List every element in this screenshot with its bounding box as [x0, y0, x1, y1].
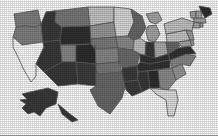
choropleth-map-figure: [0, 0, 218, 136]
us-map-svg: [0, 0, 218, 136]
figure-baseline: [0, 135, 218, 136]
state-florida[interactable]: [150, 88, 178, 116]
state-washington[interactable]: [14, 10, 41, 27]
state-alaska[interactable]: [20, 88, 78, 122]
state-arkansas[interactable]: [122, 66, 138, 82]
state-massachusetts[interactable]: [193, 18, 206, 23]
state-rhode-island[interactable]: [200, 23, 203, 27]
state-wyoming[interactable]: [60, 26, 91, 45]
state-new-hampshire[interactable]: [196, 11, 202, 18]
state-new-mexico[interactable]: [76, 62, 96, 86]
state-vermont[interactable]: [190, 11, 196, 18]
state-connecticut[interactable]: [193, 22, 200, 28]
state-michigan[interactable]: [146, 12, 162, 42]
